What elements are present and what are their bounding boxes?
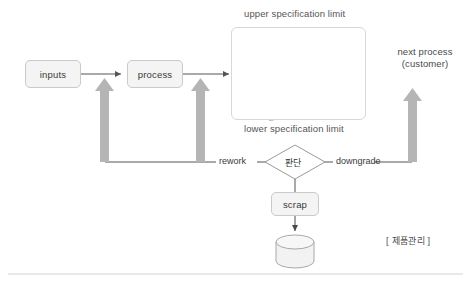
thick-arrow-rework-2 xyxy=(191,78,210,162)
database-cylinder xyxy=(276,235,314,268)
node-process[interactable]: process xyxy=(127,60,183,88)
thick-arrow-downgrade xyxy=(403,88,422,162)
thick-arrow-rework-1 xyxy=(95,78,114,162)
decision-label: 판단 xyxy=(285,156,301,169)
rework-label: rework xyxy=(219,156,246,166)
next-process-label-line2: (customer) xyxy=(382,58,468,69)
node-scrap-label: scrap xyxy=(283,199,307,210)
node-process-label: process xyxy=(138,69,173,80)
lower-spec-limit-label: lower specification limit xyxy=(244,123,344,134)
product-management-tag: [ 제품관리 ] xyxy=(386,234,430,247)
node-inputs[interactable]: inputs xyxy=(25,60,81,88)
diagram-canvas: inputs process scrap upper specification… xyxy=(0,0,471,281)
upper-spec-limit-label: upper specification limit xyxy=(244,8,345,19)
downgrade-label: downgrade xyxy=(336,156,381,166)
next-process-label-line1: next process xyxy=(382,46,468,57)
node-inputs-label: inputs xyxy=(40,69,67,80)
spec-limits-panel xyxy=(231,27,366,120)
node-scrap[interactable]: scrap xyxy=(271,192,319,216)
